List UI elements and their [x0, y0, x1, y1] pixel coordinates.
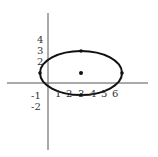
top-vertex-point	[79, 49, 83, 53]
x-tick-label: 2	[66, 88, 72, 99]
left-vertex-point	[38, 71, 42, 75]
x-tick-label: 4	[90, 88, 96, 99]
y-tick-label: -2	[31, 101, 41, 112]
right-vertex-point	[120, 71, 124, 75]
y-tick-label: 2	[37, 56, 43, 67]
center-point	[79, 71, 83, 75]
x-tick-label: 6	[112, 88, 118, 99]
ellipse-chart: 4 3 2 -1 -2 1 2 3 4 5 6	[0, 0, 158, 157]
y-tick-label: 3	[37, 45, 43, 56]
x-tick-label: 5	[101, 88, 107, 99]
y-tick-label: 4	[37, 34, 43, 45]
x-tick-label: 1	[55, 88, 61, 99]
y-tick-label: -1	[31, 90, 41, 101]
x-tick-label: 3	[78, 88, 84, 99]
